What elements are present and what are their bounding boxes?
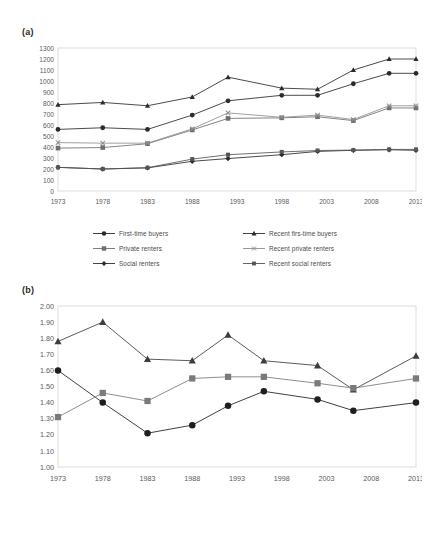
diamond-marker-icon (92, 259, 116, 268)
legend-item-social-renters: Social renters (92, 259, 242, 268)
svg-text:100: 100 (43, 177, 54, 184)
svg-text:1998: 1998 (274, 198, 289, 205)
svg-text:1.30: 1.30 (40, 414, 54, 423)
panel-b-label: (b) (22, 285, 34, 295)
svg-text:600: 600 (43, 122, 54, 129)
svg-text:2003: 2003 (319, 474, 335, 483)
svg-text:1.90: 1.90 (40, 318, 54, 327)
square-marker-icon (242, 259, 266, 268)
svg-text:1100: 1100 (40, 67, 55, 74)
legend-row: Private renters Recent private renters (92, 241, 392, 256)
svg-text:2008: 2008 (364, 198, 379, 205)
chart-a-plot: 0100200300400500600700800900100011001200… (22, 42, 422, 217)
svg-text:1978: 1978 (95, 198, 110, 205)
svg-text:2013: 2013 (408, 474, 422, 483)
svg-text:1.70: 1.70 (40, 350, 54, 359)
svg-text:1973: 1973 (50, 474, 66, 483)
svg-text:0: 0 (50, 188, 54, 195)
svg-text:1.10: 1.10 (40, 447, 54, 456)
chart-a-svg: 0100200300400500600700800900100011001200… (22, 42, 422, 217)
panel-a-label: (a) (22, 27, 34, 37)
svg-text:400: 400 (43, 144, 54, 151)
legend-item-recent-private-renters: Recent private renters (242, 244, 392, 253)
svg-text:1988: 1988 (184, 474, 200, 483)
svg-text:1.20: 1.20 (40, 430, 54, 439)
legend-label: Recent private renters (269, 244, 334, 253)
legend-item-first-time-buyers: First-time buyers (92, 229, 242, 238)
svg-text:700: 700 (43, 111, 54, 118)
square-marker-icon (92, 244, 116, 253)
svg-text:1.00: 1.00 (40, 463, 54, 472)
chart-b-plot: 1.001.101.201.301.401.501.601.701.801.90… (22, 300, 422, 495)
legend-label: Private renters (119, 244, 162, 253)
svg-text:1.60: 1.60 (40, 366, 54, 375)
chart-a-legend: First-time buyers Recent firs-time buyer… (92, 226, 392, 271)
svg-text:1978: 1978 (95, 474, 111, 483)
legend-item-recent-social-renters: Recent social renters (242, 259, 392, 268)
legend-item-recent-first-time-buyers: Recent firs-time buyers (242, 229, 392, 238)
svg-text:1998: 1998 (274, 474, 290, 483)
svg-text:200: 200 (43, 166, 54, 173)
legend-item-private-renters: Private renters (92, 244, 242, 253)
legend-label: Social renters (119, 259, 159, 268)
legend-row: First-time buyers Recent firs-time buyer… (92, 226, 392, 241)
svg-text:1983: 1983 (140, 474, 156, 483)
chart-b-svg: 1.001.101.201.301.401.501.601.701.801.90… (22, 300, 422, 495)
svg-text:2.00: 2.00 (40, 302, 54, 311)
svg-text:1993: 1993 (230, 198, 245, 205)
svg-text:1973: 1973 (51, 198, 66, 205)
legend-label: First-time buyers (119, 229, 168, 238)
svg-text:2003: 2003 (319, 198, 334, 205)
svg-text:300: 300 (43, 155, 54, 162)
svg-text:1200: 1200 (39, 56, 54, 63)
svg-text:800: 800 (43, 100, 54, 107)
svg-text:1993: 1993 (229, 474, 245, 483)
panel-b: (b) 1.001.101.201.301.401.501.601.701.80… (0, 276, 432, 547)
legend-row: Social renters Recent social renters (92, 256, 392, 271)
svg-text:1.80: 1.80 (40, 334, 54, 343)
triangle-marker-icon (242, 229, 266, 238)
svg-text:1983: 1983 (140, 198, 155, 205)
svg-text:1000: 1000 (39, 78, 54, 85)
x-marker-icon (242, 244, 266, 253)
panel-a: (a) 010020030040050060070080090010001100… (0, 0, 432, 276)
svg-text:2008: 2008 (363, 474, 379, 483)
svg-text:1300: 1300 (39, 45, 54, 52)
svg-text:900: 900 (43, 89, 54, 96)
svg-text:1.50: 1.50 (40, 382, 54, 391)
legend-label: Recent social renters (269, 259, 331, 268)
svg-text:500: 500 (43, 133, 54, 140)
svg-text:1988: 1988 (185, 198, 200, 205)
legend-label: Recent firs-time buyers (269, 229, 337, 238)
circle-marker-icon (92, 229, 116, 238)
svg-text:2013: 2013 (409, 198, 422, 205)
svg-text:1.40: 1.40 (40, 398, 54, 407)
